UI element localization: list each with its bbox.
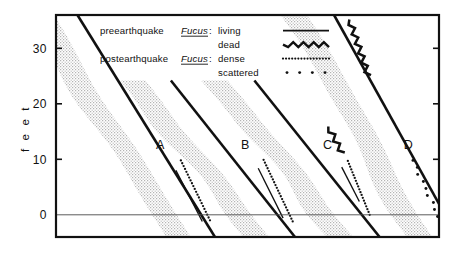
- dense-fucus-dot-B: [262, 159, 264, 161]
- plot-content: [30, 15, 458, 237]
- scattered-fucus-dot-D: [432, 201, 435, 204]
- legend-sample-dense-dot: [291, 58, 293, 60]
- dense-fucus-dot-A: [184, 168, 186, 170]
- dense-fucus-dot-B: [284, 204, 286, 206]
- dense-fucus-dot-C: [364, 202, 366, 204]
- legend-period-2: postearthquake: [100, 53, 168, 64]
- dense-fucus-dot-C: [347, 160, 349, 162]
- dense-fucus-dot-B: [273, 181, 275, 183]
- dense-fucus-dot-B: [282, 201, 284, 203]
- legend-state-dense: dense: [218, 53, 245, 64]
- dense-fucus-dot-A: [180, 159, 182, 161]
- y-tick-label-0: 0: [40, 208, 47, 222]
- dense-fucus-dot-A: [182, 165, 184, 167]
- legend-sample-dense-dot: [288, 58, 290, 60]
- dense-fucus-dot-A: [194, 188, 196, 190]
- dense-fucus-dot-C: [363, 199, 365, 201]
- legend-genus-0: Fucus: [181, 25, 208, 36]
- legend-sample-dense-dot: [316, 58, 318, 60]
- scattered-fucus-dot-D: [425, 187, 428, 190]
- dense-fucus-dot-B: [264, 162, 266, 164]
- legend-colon-0: :: [209, 25, 212, 36]
- y-axis-title: f e e t: [19, 105, 31, 152]
- dense-fucus-dot-A: [202, 205, 204, 207]
- legend-sample-dense-dot: [282, 58, 284, 60]
- legend-sample-scattered-dot: [324, 71, 327, 74]
- dense-fucus-dot-B: [292, 220, 294, 222]
- dense-fucus-dot-A: [191, 182, 193, 184]
- dense-fucus-dot-B: [281, 198, 283, 200]
- y-tick-label-10: 10: [33, 153, 47, 167]
- dense-fucus-dot-C: [355, 180, 357, 182]
- dense-fucus-dot-B: [268, 170, 270, 172]
- dense-fucus-dot-C: [366, 208, 368, 210]
- legend-sample-dense-dot: [306, 58, 308, 60]
- y-tick-label-20: 20: [33, 97, 47, 111]
- dense-fucus-dot-C: [360, 194, 362, 196]
- legend-sample-dense-dot: [325, 58, 327, 60]
- legend-state-dead: dead: [218, 39, 240, 50]
- dense-fucus-dot-B: [278, 192, 280, 194]
- dense-fucus-dot-A: [192, 185, 194, 187]
- dense-fucus-dot-A: [188, 176, 190, 178]
- dense-fucus-dot-A: [198, 196, 200, 198]
- dense-fucus-dot-B: [265, 164, 267, 166]
- dense-fucus-dot-A: [195, 191, 197, 193]
- dense-fucus-dot-B: [288, 212, 290, 214]
- scattered-fucus-dot-D: [422, 180, 425, 183]
- legend-state-living: living: [218, 25, 241, 36]
- legend-sample-dense-dot: [319, 58, 321, 60]
- transect-label-D: D: [404, 138, 413, 152]
- legend-sample-dense-dot: [322, 58, 324, 60]
- dense-fucus-dot-A: [187, 174, 189, 176]
- scattered-fucus-dot-D: [426, 194, 429, 197]
- dense-fucus-dot-C: [358, 188, 360, 190]
- legend-sample-dense-dot: [310, 58, 312, 60]
- dense-fucus-dot-A: [196, 194, 198, 196]
- dense-fucus-dot-A: [203, 208, 205, 210]
- legend-period-0: preearthquake: [100, 25, 164, 36]
- dense-fucus-dot-C: [351, 171, 353, 173]
- figure-root: 0102030 f e e t ABCD preearthquakeFucus:…: [0, 0, 463, 254]
- dense-fucus-dot-B: [266, 167, 268, 169]
- dense-fucus-dot-B: [277, 190, 279, 192]
- dense-fucus-dot-C: [356, 182, 358, 184]
- dense-fucus-dot-A: [205, 211, 207, 213]
- dense-fucus-dot-C: [349, 165, 351, 167]
- dense-fucus-dot-A: [199, 199, 201, 201]
- scattered-fucus-dot-D: [433, 208, 436, 211]
- beach-profile-chart: 0102030 f e e t ABCD preearthquakeFucus:…: [0, 0, 463, 254]
- legend-sample-dense-dot: [294, 58, 296, 60]
- legend-colon-2: :: [209, 53, 212, 64]
- dense-fucus-dot-C: [354, 177, 356, 179]
- legend-sample-dense-dot: [300, 58, 302, 60]
- legend-sample-scattered-dot: [298, 71, 301, 74]
- dense-fucus-dot-B: [290, 218, 292, 220]
- dense-fucus-dot-C: [362, 197, 364, 199]
- legend-sample-dense-dot: [313, 58, 315, 60]
- dense-fucus-dot-B: [269, 173, 271, 175]
- transect-label-C: C: [323, 138, 332, 152]
- dense-fucus-dot-C: [348, 163, 350, 165]
- legend-sample-dense-dot: [303, 58, 305, 60]
- dense-fucus-dot-A: [207, 216, 209, 218]
- dense-fucus-dot-C: [367, 211, 369, 213]
- dense-fucus-dot-B: [272, 178, 274, 180]
- dense-fucus-dot-B: [270, 176, 272, 178]
- legend-sample-dense-dot: [297, 58, 299, 60]
- legend-sample-scattered-dot: [311, 71, 314, 74]
- legend-genus-2: Fucus: [181, 53, 208, 64]
- dense-fucus-dot-C: [359, 191, 361, 193]
- y-tick-label-30: 30: [33, 42, 47, 56]
- dense-fucus-dot-C: [352, 174, 354, 176]
- dense-fucus-dot-A: [201, 202, 203, 204]
- dense-fucus-dot-B: [286, 209, 288, 211]
- dense-fucus-dot-A: [189, 179, 191, 181]
- scattered-fucus-dot-D: [416, 166, 419, 169]
- scattered-fucus-dot-D: [416, 173, 419, 176]
- dense-fucus-dot-B: [285, 206, 287, 208]
- legend-sample-scattered-dot: [286, 71, 289, 74]
- transect-label-B: B: [241, 138, 249, 152]
- scattered-fucus-dot-D: [412, 159, 415, 162]
- axis-tick-labels: 0102030: [33, 42, 47, 223]
